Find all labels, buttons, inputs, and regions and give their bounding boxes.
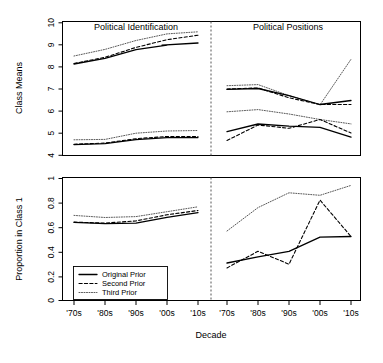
top-y-tick-6: 6	[46, 108, 56, 113]
top-y-tick-4: 4	[46, 153, 56, 158]
top-left-upper-cluster	[74, 32, 198, 64]
bottom-y-tick-0-6: 0.6	[46, 222, 56, 234]
bottom-y-tick-0-8: 0.8	[46, 197, 56, 209]
bottom-y-tickmarks	[59, 179, 63, 301]
bottom-y-tick-0-4: 0.4	[46, 246, 56, 258]
series-original-prior	[227, 89, 351, 105]
x-tick-90s-right: '90s	[281, 308, 296, 318]
series-second-prior	[227, 200, 351, 268]
legend: Original Prior Second Prior Third Prior	[74, 267, 168, 300]
series-original-prior	[227, 124, 351, 137]
bottom-y-tick-0-0: 0	[46, 298, 56, 303]
bottom-y-tick-1-0: 1	[46, 176, 56, 181]
top-right-upper-cluster	[227, 59, 351, 105]
x-tick-80s-left: '80s	[97, 308, 112, 318]
x-axis: '70s '80s '90s '00s '10s '70s '80s '90s …	[66, 301, 358, 341]
top-panel-ylabel: Class Means	[14, 61, 24, 114]
panel-title-political-positions: Political Positions	[253, 22, 324, 32]
top-panel-y-axis: 10 9 8 7 6 5 4	[46, 18, 62, 158]
series-original-prior	[227, 237, 351, 264]
top-y-tickmarks	[59, 23, 63, 156]
series-second-prior	[227, 120, 351, 141]
figure-container: 10 9 8 7 6 5 4 Class Means Political Ide…	[0, 0, 383, 363]
x-tick-70s-left: '70s	[66, 308, 81, 318]
top-y-tick-9: 9	[46, 42, 56, 47]
top-y-tick-5: 5	[46, 131, 56, 136]
top-y-tick-10: 10	[46, 18, 56, 28]
bottom-panel-ylabel: Proportion in Class 1	[14, 197, 24, 281]
top-y-tick-8: 8	[46, 64, 56, 69]
x-tick-10s-right: '10s	[343, 308, 358, 318]
panel-title-political-identification: Political Identification	[94, 22, 178, 32]
x-tick-70s-right: '70s	[219, 308, 234, 318]
bottom-left-cluster	[74, 207, 198, 224]
x-tick-90s-left: '90s	[128, 308, 143, 318]
x-tick-80s-right: '80s	[250, 308, 265, 318]
x-tick-00s-left: '00s	[159, 308, 174, 318]
top-y-tick-7: 7	[46, 86, 56, 91]
top-panel: 10 9 8 7 6 5 4 Class Means Political Ide…	[14, 18, 361, 158]
series-original-prior	[74, 43, 198, 64]
bottom-right-cluster	[227, 185, 351, 268]
bottom-y-tick-0-2: 0.2	[46, 271, 56, 283]
series-third-prior	[227, 59, 351, 105]
series-third-prior	[227, 110, 351, 124]
top-right-lower-cluster	[227, 110, 351, 141]
x-tickmarks	[74, 301, 351, 306]
legend-label-third-prior: Third Prior	[102, 288, 138, 297]
top-left-lower-cluster	[74, 131, 198, 145]
legend-label-original-prior: Original Prior	[102, 270, 146, 279]
bottom-panel-y-axis: 1 0.8 0.6 0.4 0.2 0	[46, 176, 62, 303]
chart-svg: 10 9 8 7 6 5 4 Class Means Political Ide…	[0, 0, 383, 363]
x-tick-10s-left: '10s	[190, 308, 205, 318]
legend-label-second-prior: Second Prior	[102, 279, 146, 288]
x-axis-label: Decade	[195, 330, 226, 340]
series-third-prior	[227, 185, 351, 231]
x-tick-00s-right: '00s	[312, 308, 327, 318]
bottom-panel: 1 0.8 0.6 0.4 0.2 0 Proportion in Class …	[14, 176, 361, 340]
series-original-prior	[74, 213, 198, 224]
